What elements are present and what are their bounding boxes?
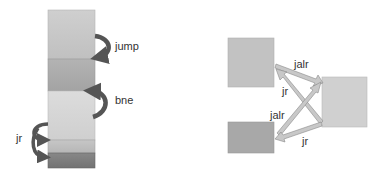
jalr-label-top: jalr <box>293 58 309 70</box>
left-diagram: jump bne jr <box>15 10 139 168</box>
jr-arrow-to-block-5 <box>33 128 44 157</box>
jr-label: jr <box>15 132 22 144</box>
block-3 <box>48 91 95 140</box>
right-diagram: jalr jr jalr jr <box>228 38 367 153</box>
block-4 <box>48 140 95 153</box>
bottom-left-block <box>228 122 274 153</box>
top-left-block <box>228 38 274 87</box>
block-5 <box>48 153 95 168</box>
block-2 <box>48 59 95 91</box>
jr-label-top: jr <box>281 85 288 97</box>
diagram-canvas: jump bne jr jalr jr jalr jr <box>0 0 383 178</box>
jalr-label-bottom: jalr <box>269 109 285 121</box>
jr-label-bottom: jr <box>301 135 308 147</box>
block-1 <box>48 10 95 59</box>
jump-arrow <box>95 36 109 57</box>
right-block <box>322 77 367 127</box>
bne-label: bne <box>115 94 133 106</box>
jump-label: jump <box>114 40 139 52</box>
